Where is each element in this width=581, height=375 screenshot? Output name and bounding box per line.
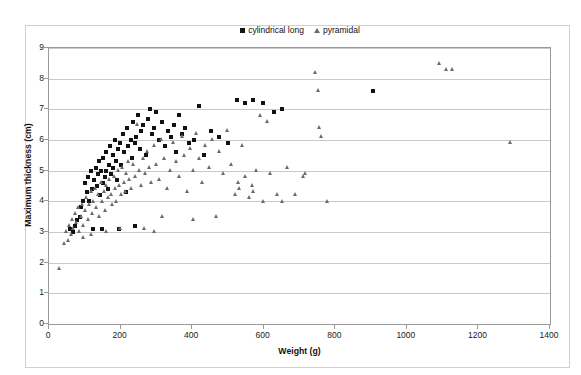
data-point-cylindrical-long (163, 144, 167, 148)
y-tick-mark-1 (44, 292, 48, 293)
data-point-cylindrical-long (133, 141, 137, 145)
x-tick-label-0: 0 (28, 330, 68, 340)
y-tick-label-9: 9 (22, 42, 44, 52)
data-point-pyramidal (124, 171, 128, 175)
x-axis-title: Weight (g) (48, 346, 551, 356)
data-point-pyramidal (280, 199, 284, 203)
data-point-pyramidal (217, 149, 221, 153)
data-point-pyramidal (162, 156, 166, 160)
data-point-pyramidal (104, 183, 108, 187)
x-tick-mark-200 (120, 325, 121, 329)
data-point-cylindrical-long (118, 141, 122, 145)
data-point-pyramidal (89, 232, 93, 236)
x-tick-label-1400: 1400 (529, 330, 569, 340)
data-point-pyramidal (100, 199, 104, 203)
chart-legend: cylindrical long pyramidal (200, 22, 400, 38)
data-point-cylindrical-long (130, 156, 134, 160)
data-point-cylindrical-long (169, 135, 173, 139)
data-point-pyramidal (229, 162, 233, 166)
data-point-cylindrical-long (183, 126, 187, 130)
data-point-cylindrical-long (217, 135, 221, 139)
data-point-pyramidal (80, 202, 84, 206)
data-point-cylindrical-long (226, 141, 230, 145)
data-point-cylindrical-long (134, 135, 138, 139)
data-point-pyramidal (171, 140, 175, 144)
data-point-cylindrical-long (166, 129, 170, 133)
data-point-cylindrical-long (192, 138, 196, 142)
data-point-cylindrical-long (91, 227, 95, 231)
data-point-cylindrical-long (172, 123, 176, 127)
data-point-pyramidal (174, 159, 178, 163)
data-point-pyramidal (258, 113, 262, 117)
data-point-pyramidal (94, 205, 98, 209)
data-point-cylindrical-long (125, 126, 129, 130)
gridline-y-1 (49, 293, 550, 294)
x-tick-label-1200: 1200 (457, 330, 497, 340)
data-point-pyramidal (142, 226, 146, 230)
chart-figure: cylindrical long pyramidal 0123456789 02… (0, 0, 581, 375)
data-point-cylindrical-long (177, 113, 181, 117)
data-point-pyramidal (261, 199, 265, 203)
data-point-pyramidal (194, 131, 198, 135)
data-point-pyramidal (160, 214, 164, 218)
data-point-pyramidal (129, 186, 133, 190)
data-point-pyramidal (325, 199, 329, 203)
y-tick-label-1: 1 (22, 287, 44, 297)
data-point-pyramidal (157, 177, 161, 181)
data-point-cylindrical-long (272, 110, 276, 114)
data-point-pyramidal (71, 226, 75, 230)
data-point-pyramidal (313, 70, 317, 74)
data-point-pyramidal (188, 146, 192, 150)
x-tick-label-400: 400 (171, 330, 211, 340)
data-point-pyramidal (57, 266, 61, 270)
data-point-pyramidal (133, 174, 137, 178)
data-point-cylindrical-long (235, 98, 239, 102)
y-tick-mark-2 (44, 262, 48, 263)
data-point-cylindrical-long (261, 101, 265, 105)
legend-label-pyramidal: pyramidal (323, 25, 360, 35)
data-point-pyramidal (66, 238, 70, 242)
data-point-cylindrical-long (121, 132, 125, 136)
data-point-pyramidal (159, 137, 163, 141)
data-point-pyramidal (319, 134, 323, 138)
x-tick-mark-1000 (406, 325, 407, 329)
x-tick-mark-1400 (549, 325, 550, 329)
data-point-pyramidal (126, 159, 130, 163)
legend-item-pyramidal: pyramidal (314, 25, 360, 35)
data-point-pyramidal (141, 156, 145, 160)
data-point-pyramidal (103, 208, 107, 212)
data-point-pyramidal (437, 61, 441, 65)
x-tick-mark-1200 (477, 325, 478, 329)
data-point-cylindrical-long (133, 224, 137, 228)
data-point-cylindrical-long (101, 156, 105, 160)
data-point-cylindrical-long (148, 107, 152, 111)
data-point-cylindrical-long (103, 175, 107, 179)
data-point-cylindrical-long (138, 147, 142, 151)
y-tick-mark-8 (44, 78, 48, 79)
data-point-pyramidal (165, 186, 169, 190)
x-tick-mark-800 (334, 325, 335, 329)
gridline-y-8 (49, 79, 550, 80)
x-tick-label-1000: 1000 (386, 330, 426, 340)
data-point-pyramidal (102, 189, 106, 193)
data-point-cylindrical-long (113, 138, 117, 142)
data-point-pyramidal (251, 189, 255, 193)
data-point-cylindrical-long (202, 153, 206, 157)
data-point-pyramidal (81, 235, 85, 239)
data-point-pyramidal (247, 195, 251, 199)
data-point-pyramidal (191, 217, 195, 221)
data-point-pyramidal (285, 165, 289, 169)
data-point-pyramidal (114, 199, 118, 203)
data-point-cylindrical-long (108, 144, 112, 148)
x-tick-mark-0 (48, 325, 49, 329)
data-point-cylindrical-long (115, 178, 119, 182)
data-point-cylindrical-long (174, 150, 178, 154)
data-point-pyramidal (254, 168, 258, 172)
data-point-pyramidal (123, 189, 127, 193)
data-point-cylindrical-long (92, 178, 96, 182)
data-point-pyramidal (214, 214, 218, 218)
data-point-pyramidal (243, 174, 247, 178)
data-point-pyramidal (444, 67, 448, 71)
y-tick-mark-9 (44, 47, 48, 48)
data-point-pyramidal (84, 195, 88, 199)
